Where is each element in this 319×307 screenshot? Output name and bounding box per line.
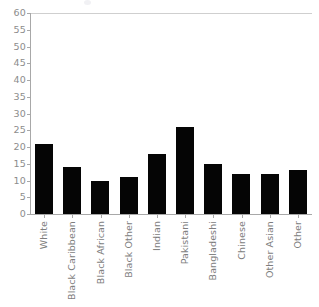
- x-axis-category-label: Black Caribbean: [67, 221, 77, 300]
- x-axis-tick-mark: [298, 215, 299, 218]
- bar-slot: [284, 13, 312, 214]
- x-axis-category-label: Indian: [152, 221, 162, 251]
- y-axis-tick-label: 30: [0, 108, 26, 120]
- x-axis-category-label: Chinese: [237, 221, 247, 260]
- bar-slot: [199, 13, 227, 214]
- x-axis-category-label: Black African: [96, 221, 106, 284]
- y-axis-tick-label: 20: [0, 141, 26, 153]
- x-axis-category-label: Pakistani: [180, 221, 190, 264]
- bar-slot: [256, 13, 284, 214]
- title-remnant: [84, 0, 91, 5]
- bar: [35, 144, 53, 214]
- bar-slot: [115, 13, 143, 214]
- x-axis-tick-mark: [44, 215, 45, 218]
- x-axis-category-label: Other Asian: [265, 221, 275, 278]
- y-axis-tick-label: 50: [0, 41, 26, 53]
- y-axis-tick-label: 45: [0, 57, 26, 69]
- y-axis-tick-label: 5: [0, 191, 26, 203]
- y-axis-tick-label: 10: [0, 175, 26, 187]
- x-axis-tick-mark: [129, 215, 130, 218]
- x-axis-tick-mark: [213, 215, 214, 218]
- x-axis-tick-mark: [157, 215, 158, 218]
- y-axis-tick-label: 55: [0, 24, 26, 36]
- bar: [148, 154, 166, 214]
- y-axis-tick-label: 35: [0, 91, 26, 103]
- x-axis-tick-mark: [72, 215, 73, 218]
- bar: [204, 164, 222, 214]
- bar-chart-figure: 051015202530354045505560 WhiteBlack Cari…: [0, 0, 319, 307]
- bar: [261, 174, 279, 214]
- x-axis-tick-mark: [270, 215, 271, 218]
- bar: [289, 170, 307, 214]
- y-axis-tick-label: 15: [0, 158, 26, 170]
- x-axis-tick-mark: [242, 215, 243, 218]
- y-axis-tick-label: 40: [0, 74, 26, 86]
- x-axis-category-label: White: [39, 221, 49, 249]
- bar-slot: [58, 13, 86, 214]
- bar: [63, 167, 81, 214]
- y-axis-tick-label: 25: [0, 124, 26, 136]
- x-axis-tick-mark: [185, 215, 186, 218]
- bar: [176, 127, 194, 214]
- bar-slot: [86, 13, 114, 214]
- bar-slot: [143, 13, 171, 214]
- y-axis-tick-label: 60: [0, 7, 26, 19]
- bar-slot: [171, 13, 199, 214]
- y-axis-tick-label: 0: [0, 208, 26, 220]
- x-axis-category-label: Bangladeshi: [208, 221, 218, 280]
- x-axis-tick-mark: [101, 215, 102, 218]
- x-axis-category-label: Black Other: [124, 221, 134, 278]
- x-axis-category-label: Other: [293, 221, 303, 248]
- bar: [120, 177, 138, 214]
- bar: [91, 181, 109, 215]
- bar: [232, 174, 250, 214]
- plot-area: [30, 13, 312, 214]
- bar-slot: [30, 13, 58, 214]
- bar-slot: [227, 13, 255, 214]
- y-axis-tick-mark: [27, 214, 30, 215]
